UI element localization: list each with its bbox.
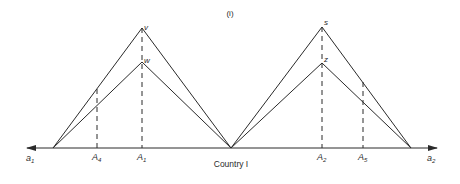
peak-label-s: s <box>324 18 328 27</box>
peak-label-z: z <box>323 55 328 64</box>
peak-label-w: w <box>144 56 151 65</box>
tick-label-a1: A1 <box>136 152 146 163</box>
axis-title: Country I <box>214 159 249 169</box>
panel-label: (i) <box>226 9 233 18</box>
peak-label-v: v <box>144 23 149 32</box>
axis-end-a1: a1 <box>26 153 34 164</box>
tick-label-a5: A5 <box>357 152 368 163</box>
tick-label-a4: A4 <box>91 152 102 163</box>
country-diagram: (i) v w s z a1 a2 A4 A1 A2 A5 Country I <box>0 0 460 184</box>
axis-end-a2: a2 <box>427 153 436 164</box>
right-outer-curve <box>231 27 411 148</box>
tick-label-a2: A2 <box>316 152 327 163</box>
right-inner-curve <box>231 63 411 148</box>
